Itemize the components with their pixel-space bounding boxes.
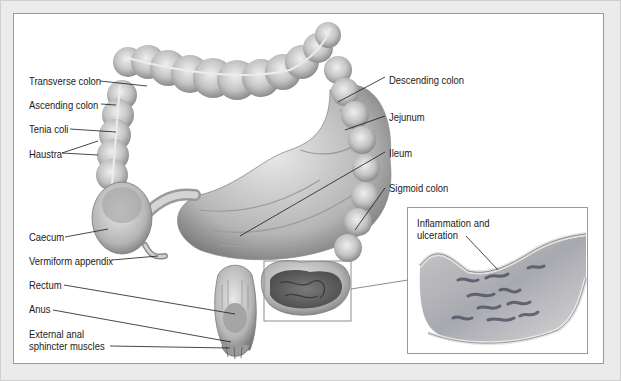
- label-ascending-colon: Ascending colon: [29, 99, 98, 111]
- label-caecum: Caecum: [29, 231, 64, 243]
- transverse-colon-shape: [113, 22, 341, 100]
- label-transverse-colon: Transverse colon: [29, 75, 101, 87]
- label-external-anal: External anal: [29, 328, 84, 340]
- label-ulceration: ulceration: [417, 229, 458, 241]
- label-sphincter-muscles: sphincter muscles: [29, 340, 105, 352]
- ascending-colon-shape: [96, 80, 137, 191]
- rectum-shape: [215, 265, 257, 350]
- label-descending-colon: Descending colon: [389, 74, 464, 86]
- label-inflammation: Inflammation and: [417, 217, 489, 229]
- label-haustra: Haustra: [29, 148, 62, 160]
- anal-sphincter-shape: [222, 345, 250, 359]
- inflammation-inset: Inflammation and ulceration: [407, 207, 588, 354]
- sigmoid-colon-shape: [261, 261, 350, 316]
- label-tenia-coli: Tenia coli: [29, 123, 68, 135]
- label-jejunum: Jejunum: [389, 111, 425, 123]
- label-anus: Anus: [29, 303, 51, 315]
- label-vermiform-appendix: Vermiform appendix: [29, 255, 113, 267]
- label-ileum: Ileum: [389, 147, 412, 159]
- label-rectum: Rectum: [29, 279, 62, 291]
- magnification-connector: [351, 280, 408, 289]
- ulceration-leader-line: [466, 236, 498, 270]
- label-sigmoid-colon: Sigmoid colon: [389, 182, 448, 194]
